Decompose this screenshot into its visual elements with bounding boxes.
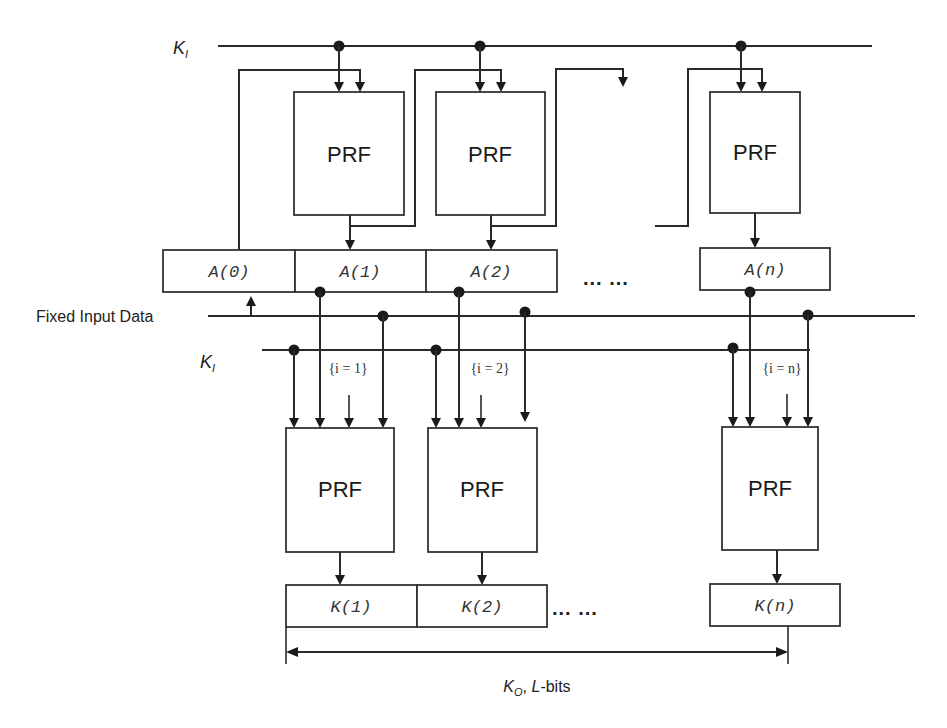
prf-label: PRF: [733, 140, 777, 165]
prf-label: PRF: [327, 142, 371, 167]
svg-text:K(n): K(n): [755, 597, 796, 616]
arrow-down-icon: [803, 417, 813, 427]
arrow-down-icon: [745, 417, 755, 427]
prf-label: PRF: [460, 477, 504, 502]
register-an: A(n): [700, 248, 830, 290]
arrow-down-icon: [736, 82, 746, 92]
arrow-down-icon: [477, 575, 487, 585]
svg-text:A(1): A(1): [339, 263, 381, 282]
svg-text:K(2): K(2): [462, 598, 503, 617]
svg-text:A(2): A(2): [470, 263, 512, 282]
bottom-prf-block-n: PRF: [722, 427, 818, 550]
arrow-up-icon: [246, 296, 256, 306]
svg-text:K(1): K(1): [331, 598, 372, 617]
bottom-prf-block-2: PRF: [428, 428, 537, 552]
register-a0: A(0): [163, 250, 295, 292]
top-prf-block-n: PRF: [710, 92, 800, 213]
top-prf-block-1: PRF: [294, 92, 404, 215]
arrow-down-icon: [344, 418, 354, 428]
register-a2: A(2): [426, 250, 557, 292]
arrow-down-icon: [496, 82, 506, 92]
output-length-label: KO, L-bits: [503, 678, 570, 698]
top-key-input-label: KI: [173, 38, 188, 60]
arrow-down-icon: [520, 412, 530, 422]
arrow-down-icon: [355, 82, 365, 92]
fixed-input-label: Fixed Input Data: [36, 308, 154, 325]
arrow-left-icon: [286, 647, 298, 657]
top-ellipsis: ... ...: [583, 267, 629, 289]
register-kn: K(n): [710, 584, 840, 626]
prf-label: PRF: [318, 477, 362, 502]
arrow-down-icon: [728, 417, 738, 427]
bottom-ellipsis: ... ...: [552, 597, 598, 619]
register-k1: K(1): [286, 585, 417, 627]
top-prf-block-2: PRF: [436, 92, 545, 215]
arrow-down-icon: [289, 418, 299, 428]
arrow-down-icon: [618, 77, 628, 87]
arrow-down-icon: [431, 418, 441, 428]
index-label-1: {i = 1}: [328, 361, 367, 376]
arrow-down-icon: [772, 574, 782, 584]
arrow-down-icon: [334, 82, 344, 92]
arrow-down-icon: [378, 418, 388, 428]
arrow-down-icon: [335, 575, 345, 585]
arrow-down-icon: [757, 82, 767, 92]
bottom-prf-block-1: PRF: [286, 428, 394, 552]
prf-label: PRF: [468, 142, 512, 167]
register-a1: A(1): [295, 250, 426, 292]
arrow-down-icon: [454, 418, 464, 428]
svg-text:A(n): A(n): [744, 261, 786, 280]
index-label-n: {i = n}: [762, 361, 801, 376]
arrow-down-icon: [486, 240, 496, 250]
index-label-2: {i = 2}: [470, 361, 509, 376]
arrow-down-icon: [475, 82, 485, 92]
arrow-down-icon: [782, 417, 792, 427]
prf-label: PRF: [748, 476, 792, 501]
arrow-right-icon: [776, 647, 788, 657]
arrow-down-icon: [345, 240, 355, 250]
arrow-down-icon: [750, 238, 760, 248]
arrow-down-icon: [476, 418, 486, 428]
kdf-feedback-mode-diagram: KI PRF PRF PRF A(0) A(: [0, 0, 947, 728]
arrow-down-icon: [315, 418, 325, 428]
bottom-key-input-label: KI: [200, 352, 215, 374]
svg-text:A(0): A(0): [208, 263, 250, 282]
register-k2: K(2): [417, 585, 547, 627]
